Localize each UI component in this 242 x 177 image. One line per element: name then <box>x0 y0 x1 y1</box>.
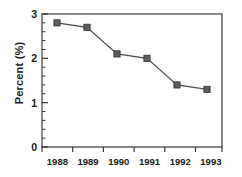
x-axis-ticks <box>42 147 222 152</box>
x-tick-label-1993: 1993 <box>200 156 221 167</box>
y-axis-major-ticks <box>42 14 48 147</box>
y-tick-label-3: 3 <box>31 8 37 20</box>
x-tick-label-1989: 1989 <box>78 156 99 167</box>
x-tick-label-1990: 1990 <box>108 156 129 167</box>
data-point-1992 <box>174 82 180 88</box>
series-line-percent <box>57 23 207 90</box>
chart-figure: Percent (%) 3 2 1 <box>0 0 242 177</box>
y-tick-label-0: 0 <box>31 141 37 153</box>
data-point-1989 <box>84 24 90 30</box>
line-chart-plot: 3 2 1 0 1988 1989 1990 1991 1992 1993 <box>0 0 242 177</box>
data-point-1990 <box>114 51 120 57</box>
x-tick-label-1991: 1991 <box>139 156 161 167</box>
data-point-1988 <box>54 20 60 26</box>
x-tick-label-1992: 1992 <box>170 156 191 167</box>
data-point-1991 <box>144 55 150 61</box>
data-point-1993 <box>204 86 210 92</box>
y-tick-label-1: 1 <box>31 97 37 109</box>
x-tick-label-1988: 1988 <box>47 156 68 167</box>
y-tick-label-2: 2 <box>31 52 37 64</box>
plot-frame <box>42 14 222 147</box>
